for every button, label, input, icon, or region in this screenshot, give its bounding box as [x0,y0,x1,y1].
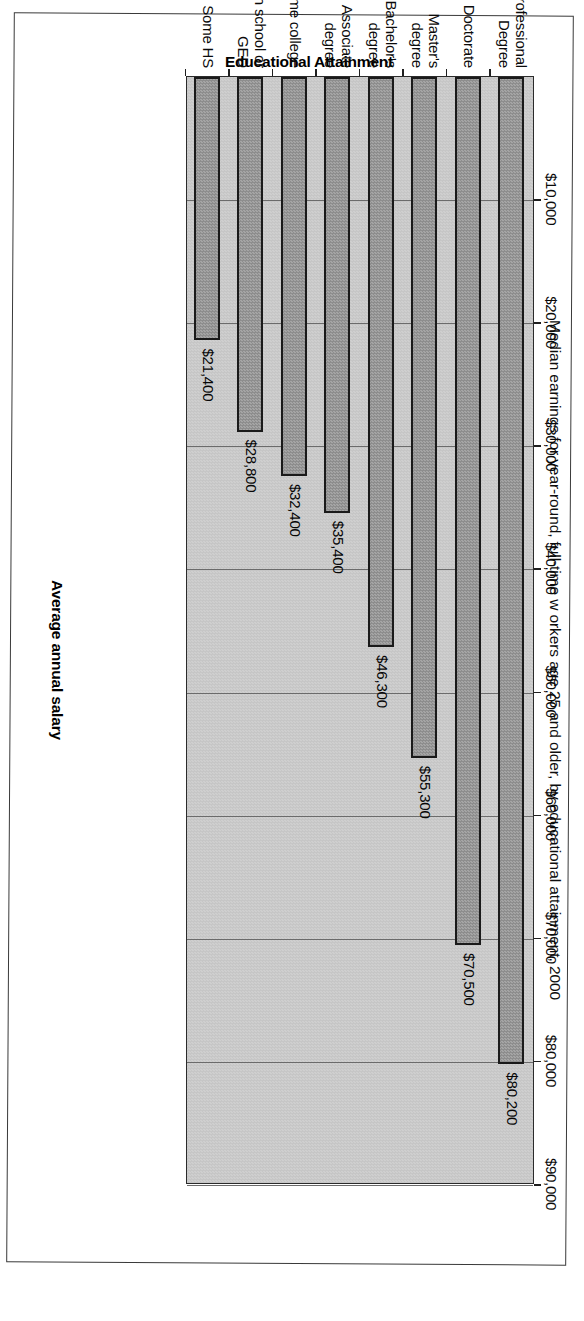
category-label-line: GED [235,0,252,68]
category-label-line: Degree [496,0,513,68]
category-label-line: Professional [512,0,529,68]
bar [411,77,437,758]
axis-tick-mark [534,1061,541,1063]
bar [237,77,263,432]
category-label-line: Some college [286,0,303,68]
category-tick-mark [185,69,187,76]
category-label: ProfessionalDegree [496,0,530,68]
category-label-line: High school or [251,0,268,68]
bar [324,77,350,513]
value-axis-tick-label: $90,000 [543,1158,560,1210]
bar-chart: Median earnings for year-round, full-tim… [18,40,566,1280]
axis-tick-mark [534,938,541,940]
bar [281,77,307,476]
gridline [187,939,533,940]
value-axis-tick-label: $40,000 [543,542,560,594]
bar-value-label: $28,800 [243,440,260,493]
category-label: Some college [286,0,303,68]
category-label: High school orGED [235,0,269,68]
category-tick-mark [359,69,361,76]
value-axis-tick-label: $30,000 [543,419,560,471]
category-label-line: Associate [338,0,355,68]
axis-tick-mark [534,199,541,201]
value-axis-title: Average annual salary [48,40,66,1280]
category-label-line: Master's [425,0,442,68]
category-tick-mark [229,69,231,76]
category-axis-title: Educational Attainment [179,53,439,71]
bar-value-label: $80,200 [504,1072,521,1125]
category-label-line: degree [322,0,339,68]
category-tick-mark [316,69,318,76]
chart-title: Median earnings for year-round, full-tim… [546,40,564,1280]
category-label-line: Doctorate [460,0,477,68]
category-label-line: Some HS [199,0,216,68]
gridline [187,1185,533,1186]
category-tick-mark [446,69,448,76]
category-label-line: degree [409,0,426,68]
bar [194,77,220,340]
axis-tick-mark [534,692,541,694]
gridline [187,1062,533,1063]
axis-tick-mark [534,815,541,817]
bar-value-label: $35,400 [330,521,347,574]
category-label: Associatedegree [322,0,356,68]
category-label-line: Bachelor's [382,0,399,68]
plot-area [186,76,534,1184]
value-axis-tick-label: $60,000 [543,789,560,841]
gridline [187,816,533,817]
category-label: Some HS [199,0,216,68]
bar [498,77,524,1064]
category-label: Doctorate [460,0,477,68]
bar-value-label: $32,400 [287,484,304,537]
gridline [187,446,533,447]
category-label: Master'sdegree [409,0,443,68]
bar-value-label: $55,300 [417,766,434,819]
gridline [187,569,533,570]
bar-value-label: $46,300 [374,655,391,708]
gridline [187,693,533,694]
bar [368,77,394,647]
value-axis-tick-label: $20,000 [543,296,560,348]
axis-tick-mark [534,445,541,447]
value-axis-tick-label: $70,000 [543,912,560,964]
axis-tick-mark [534,568,541,570]
bar-value-label: $70,500 [461,953,478,1006]
value-axis-tick-label: $10,000 [543,173,560,225]
bar [455,77,481,945]
axis-tick-mark [534,1184,541,1186]
value-axis-tick-label: $50,000 [543,665,560,717]
category-label: Bachelor'sdegree [365,0,399,68]
value-axis-tick-label: $80,000 [543,1035,560,1087]
axis-tick-mark [534,322,541,324]
category-label-line: degree [365,0,382,68]
category-tick-mark [272,69,274,76]
category-tick-mark [403,69,405,76]
category-tick-mark [490,69,492,76]
bar-value-label: $21,400 [200,348,217,401]
